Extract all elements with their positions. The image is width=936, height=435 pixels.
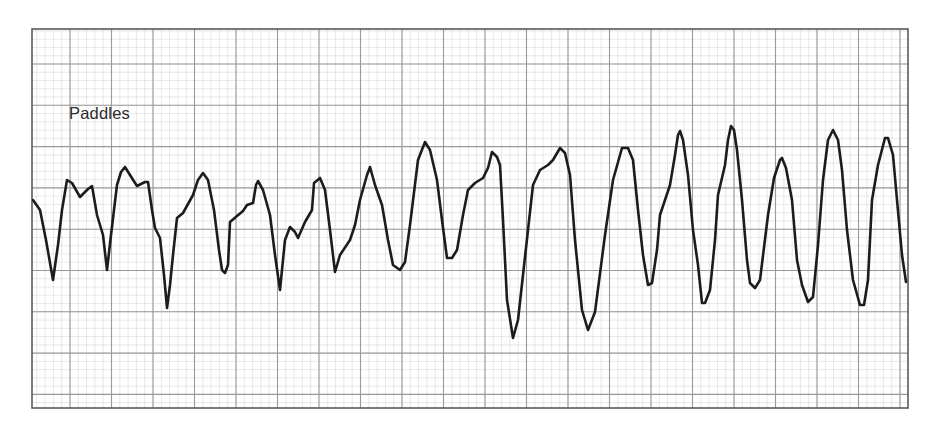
lead-label: Paddles bbox=[69, 104, 130, 123]
paper-background bbox=[32, 29, 908, 408]
ecg-strip bbox=[0, 0, 936, 435]
